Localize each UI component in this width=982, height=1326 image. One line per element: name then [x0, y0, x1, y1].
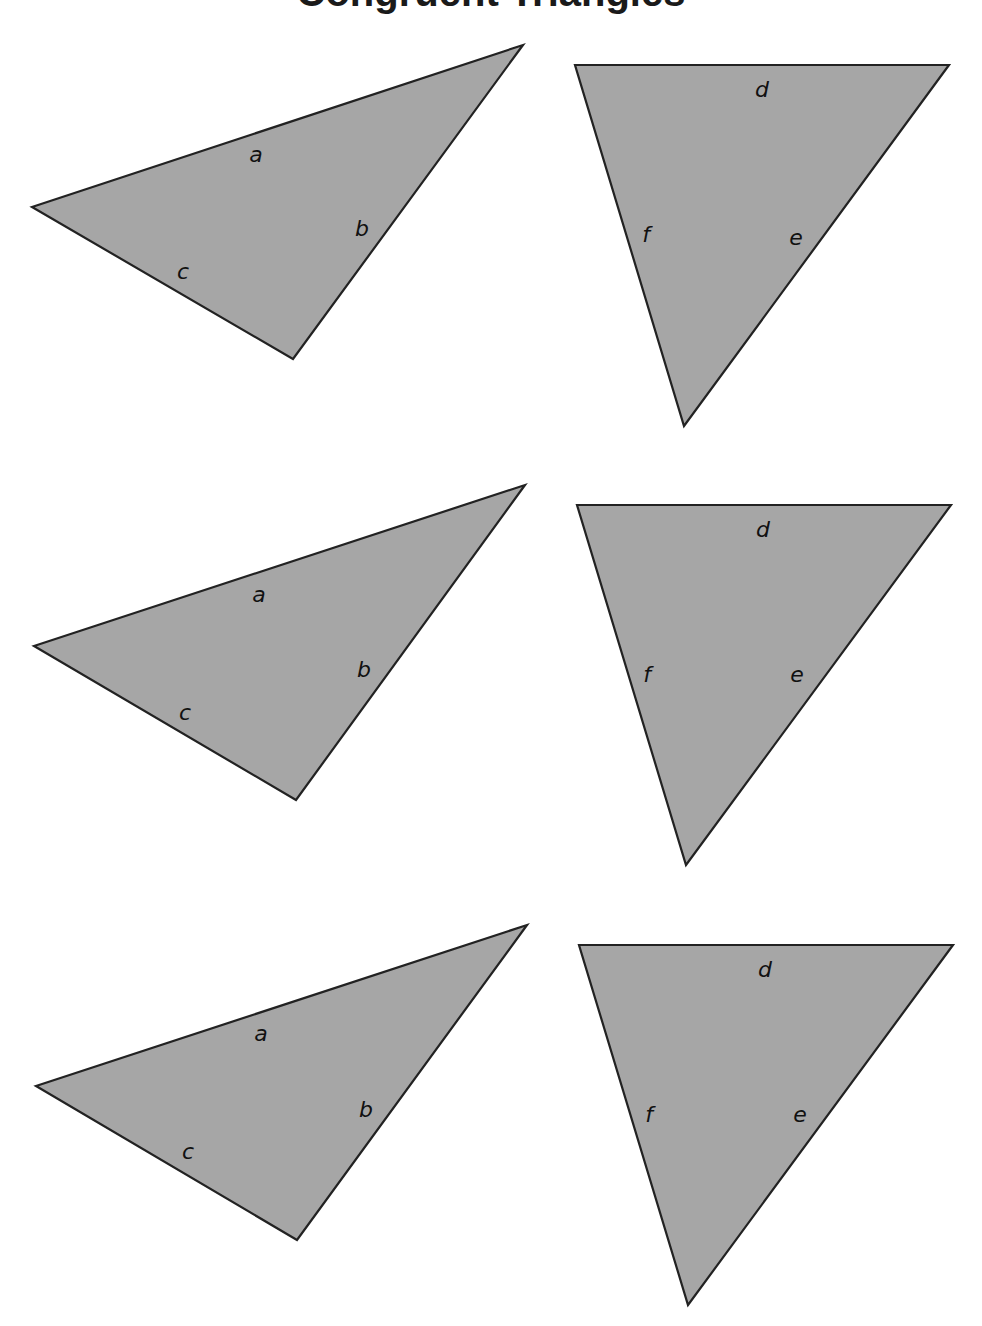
side-label-b: b	[359, 1097, 373, 1122]
triangle-shape	[579, 945, 953, 1305]
triangles-diagram: a b c d f e a b c d f e a b c	[0, 0, 982, 1326]
row-3: a b c d f e	[36, 925, 953, 1305]
side-label-c: c	[179, 700, 191, 725]
triangle-shape	[577, 505, 951, 865]
row-2: a b c d f e	[34, 485, 951, 865]
triangle-def-1: d f e	[575, 65, 949, 426]
side-label-c: c	[182, 1139, 194, 1164]
side-label-e: e	[793, 1102, 807, 1127]
side-label-d: d	[755, 77, 770, 102]
triangle-shape	[36, 925, 527, 1240]
triangle-shape	[34, 485, 525, 800]
triangle-shape	[32, 45, 523, 359]
side-label-d: d	[758, 957, 773, 982]
side-label-d: d	[756, 517, 771, 542]
triangle-def-3: d f e	[579, 945, 953, 1305]
triangle-abc-1: a b c	[32, 45, 523, 359]
triangle-abc-3: a b c	[36, 925, 527, 1240]
triangle-shape	[575, 65, 949, 426]
side-label-a: a	[252, 582, 265, 607]
side-label-c: c	[177, 259, 189, 284]
side-label-a: a	[249, 142, 262, 167]
side-label-b: b	[355, 216, 369, 241]
triangle-abc-2: a b c	[34, 485, 525, 800]
triangle-def-2: d f e	[577, 505, 951, 865]
side-label-a: a	[254, 1021, 267, 1046]
row-1: a b c d f e	[32, 45, 949, 426]
side-label-e: e	[789, 225, 803, 250]
side-label-e: e	[790, 662, 804, 687]
side-label-b: b	[357, 657, 371, 682]
